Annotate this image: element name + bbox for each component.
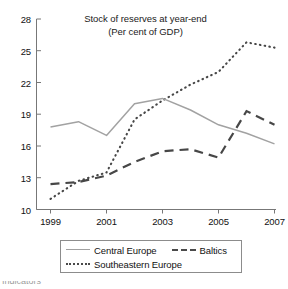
series-line-baltics <box>51 111 275 184</box>
y-tick-label-28: 28 <box>5 14 31 25</box>
legend-swatch-central-europe <box>65 244 91 256</box>
legend-label-baltics: Baltics <box>197 245 227 256</box>
y-axis-ticks <box>37 19 42 210</box>
legend-swatch-baltics <box>171 244 197 256</box>
chart-legend: Central Europe Baltics Southeastern Euro… <box>60 240 242 273</box>
y-tick-label-22: 22 <box>5 78 31 89</box>
y-tick-label-10: 10 <box>5 205 31 216</box>
cropped-footer-text: Indicators <box>2 281 122 289</box>
legend-label-southeastern-europe: Southeastern Europe <box>91 259 182 270</box>
chart-figure: Stock of reserves at year-end (Per cent … <box>0 0 287 289</box>
legend-row-1: Central Europe Baltics <box>65 243 227 257</box>
legend-label-central-europe: Central Europe <box>91 245 157 256</box>
y-tick-label-13: 13 <box>5 173 31 184</box>
x-tick-label-2007: 2007 <box>255 216 288 227</box>
axis-lines <box>37 19 277 210</box>
x-tick-label-2001: 2001 <box>87 216 127 227</box>
x-axis-ticks <box>51 210 275 214</box>
y-tick-label-25: 25 <box>5 46 31 57</box>
y-tick-label-19: 19 <box>5 109 31 120</box>
x-tick-label-1999: 1999 <box>31 216 71 227</box>
legend-swatch-southeastern-europe <box>65 258 91 270</box>
legend-row-2: Southeastern Europe <box>65 257 182 271</box>
x-tick-label-2003: 2003 <box>143 216 183 227</box>
cropped-footer-label: Indicators <box>2 281 122 286</box>
y-tick-label-16: 16 <box>5 141 31 152</box>
x-tick-label-2005: 2005 <box>199 216 239 227</box>
